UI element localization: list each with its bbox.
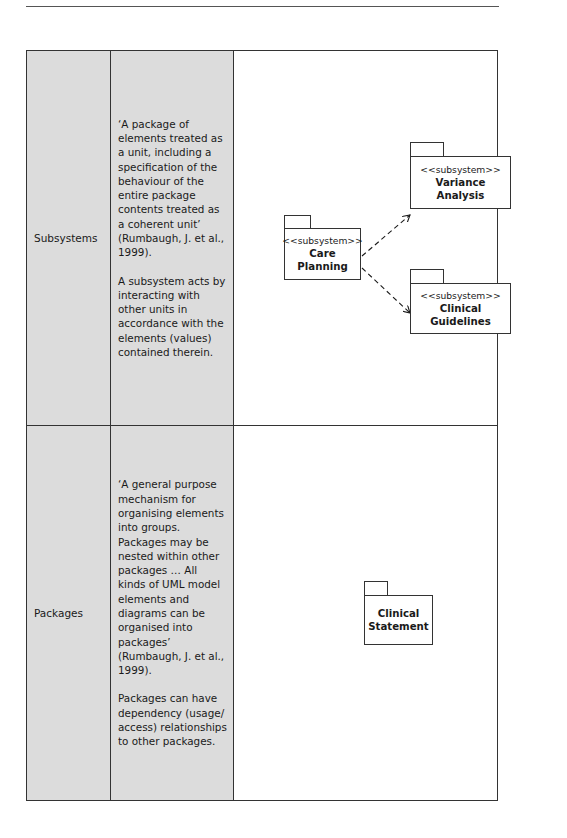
- description-cell: ‘A general purpose mechanism for organis…: [111, 426, 234, 800]
- package-stereotype: <<subsystem>>: [420, 164, 500, 176]
- description-paragraph: A subsystem acts by interacting with oth…: [118, 274, 227, 360]
- term-label: Packages: [34, 607, 83, 619]
- description-paragraph: ‘A general purpose mechanism for organis…: [118, 477, 227, 677]
- diagram-cell: <<subsystem>> Care Planning <<subsystem>…: [234, 51, 497, 425]
- package-tab: [410, 269, 444, 284]
- term-label: Subsystems: [34, 232, 97, 244]
- package-tab: [410, 142, 444, 157]
- package-stereotype: <<subsystem>>: [420, 290, 500, 302]
- package-body: <<subsystem>> Care Planning: [284, 228, 361, 280]
- term-cell: Packages: [27, 426, 111, 800]
- package-name: Care Planning: [285, 247, 360, 273]
- package-stereotype: <<subsystem>>: [282, 235, 362, 247]
- description-paragraph: Packages can have dependency (usage/ acc…: [118, 691, 227, 748]
- dependency-arrow-guidelines: [362, 268, 410, 313]
- package-tab: [364, 581, 388, 596]
- package-body: <<subsystem>> Clinical Guidelines: [410, 283, 511, 334]
- running-header-rule: [26, 6, 499, 7]
- diagram-cell: Clinical Statement: [234, 426, 497, 800]
- package-name: Variance Analysis: [411, 176, 510, 202]
- package-body: Clinical Statement: [364, 595, 433, 645]
- table-row-subsystems: Subsystems ‘A package of elements treate…: [27, 51, 497, 426]
- description-cell: ‘A package of elements treated as a unit…: [111, 51, 234, 425]
- package-name: Clinical Guidelines: [411, 302, 510, 328]
- package-body: <<subsystem>> Variance Analysis: [410, 156, 511, 209]
- package-tab: [284, 215, 311, 229]
- package-name-line-1: Clinical: [378, 607, 420, 620]
- dependency-arrows: [234, 51, 499, 426]
- package-name-line-2: Statement: [368, 620, 429, 633]
- term-cell: Subsystems: [27, 51, 111, 425]
- definitions-table: Subsystems ‘A package of elements treate…: [26, 50, 498, 801]
- table-row-packages: Packages ‘A general purpose mechanism fo…: [27, 426, 497, 800]
- description-paragraph: ‘A package of elements treated as a unit…: [118, 117, 227, 260]
- dependency-arrow-variance: [362, 215, 410, 256]
